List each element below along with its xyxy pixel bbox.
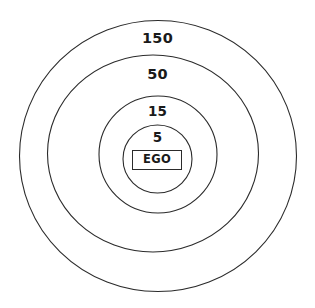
ego-box: EGO bbox=[132, 150, 182, 170]
ring-label-15: 15 bbox=[0, 105, 315, 119]
ring-label-5: 5 bbox=[0, 131, 315, 145]
concentric-circles-diagram: 150 50 15 5 EGO bbox=[0, 0, 315, 308]
ego-label: EGO bbox=[143, 154, 171, 166]
ring-label-50: 50 bbox=[0, 67, 315, 82]
ring-label-150: 150 bbox=[0, 31, 315, 46]
